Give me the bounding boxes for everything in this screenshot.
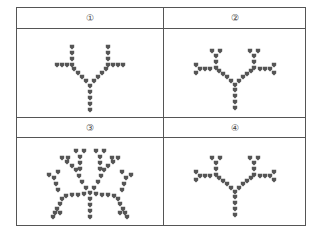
- bead-icon: [78, 155, 82, 160]
- bead-icon: [258, 67, 262, 72]
- bead-icon: [248, 156, 252, 161]
- bead-icon: [60, 63, 64, 68]
- bead-icon: [88, 209, 92, 214]
- bead-icon: [106, 45, 110, 50]
- bead-icon: [248, 49, 252, 54]
- bead-icon: [88, 84, 92, 89]
- bead-icon: [256, 49, 260, 54]
- bead-icon: [112, 194, 116, 199]
- bead-icon: [72, 67, 76, 72]
- bead-icon: [111, 63, 115, 68]
- bead-icon: [70, 57, 74, 62]
- bead-icon: [263, 174, 267, 179]
- bead-icon: [88, 96, 92, 101]
- bead-icon: [203, 174, 207, 179]
- bead-icon: [252, 60, 256, 65]
- bead-icon: [84, 186, 88, 191]
- bead-icon: [194, 178, 198, 183]
- bead-icon: [88, 191, 92, 196]
- bead-icon: [241, 182, 245, 187]
- bead-icon: [98, 161, 102, 166]
- bead-icon: [120, 170, 124, 175]
- bead-icon: [78, 167, 82, 172]
- bead-icon: [272, 178, 276, 183]
- bead-icon: [52, 176, 56, 181]
- bead-icon: [74, 149, 78, 154]
- bead-icon: [203, 67, 207, 72]
- bead-icon: [80, 180, 84, 185]
- bead-icon: [218, 49, 222, 54]
- bead-icon: [92, 186, 96, 191]
- bead-icon: [225, 182, 229, 187]
- bead-icon: [56, 188, 60, 193]
- bead-icon: [252, 167, 256, 172]
- bead-icon: [233, 201, 237, 206]
- bead-icon: [225, 75, 229, 80]
- bead-icon: [249, 176, 253, 181]
- bead-icon: [233, 106, 237, 111]
- bead-icon: [116, 63, 120, 68]
- bead-icon: [125, 215, 129, 220]
- bead-icon: [217, 176, 221, 181]
- bead-icon: [268, 67, 272, 72]
- bead-icon: [214, 167, 218, 172]
- bead-icon: [245, 179, 249, 184]
- bead-icon: [60, 197, 64, 202]
- bead-icon: [194, 71, 198, 76]
- bead-icon: [214, 60, 218, 65]
- bead-icon: [120, 188, 124, 193]
- bead-icon: [272, 63, 276, 68]
- bead-icon: [210, 156, 214, 161]
- bead-icon: [58, 211, 62, 216]
- bead-icon: [51, 215, 55, 220]
- bead-icon: [65, 63, 69, 68]
- bead-icon: [98, 167, 102, 172]
- bead-icon: [102, 149, 106, 154]
- bead-icon: [194, 63, 198, 68]
- bead-icon: [229, 79, 233, 84]
- bead-icon: [76, 193, 80, 198]
- bead-icon: [111, 160, 115, 165]
- bead-icon: [76, 71, 80, 76]
- bead-icon: [221, 179, 225, 184]
- bead-icon: [82, 149, 86, 154]
- bead-icon: [116, 156, 120, 161]
- bead-icon: [84, 79, 88, 84]
- bead-icon: [74, 168, 78, 173]
- bead-icon: [70, 51, 74, 56]
- bead-icon: [233, 207, 237, 212]
- bead-icon: [106, 57, 110, 62]
- option-1-diagram: [55, 45, 125, 113]
- bead-icon: [94, 192, 98, 197]
- bead-icon: [100, 71, 104, 76]
- bead-icon: [94, 149, 98, 154]
- bead-icon: [122, 182, 126, 187]
- bead-icon: [64, 194, 68, 199]
- bead-icon: [78, 161, 82, 166]
- option-2-diagram: [194, 49, 276, 111]
- bead-icon: [249, 69, 253, 74]
- bead-icon: [88, 102, 92, 107]
- bead-icon: [106, 164, 110, 169]
- bead-icon: [214, 161, 218, 166]
- bead-diagrams: [0, 0, 323, 242]
- bead-icon: [233, 190, 237, 195]
- bead-icon: [88, 203, 92, 208]
- bead-icon: [118, 202, 122, 207]
- bead-icon: [88, 215, 92, 220]
- bead-icon: [116, 197, 120, 202]
- bead-icon: [55, 63, 59, 68]
- bead-icon: [210, 49, 214, 54]
- bead-icon: [65, 160, 69, 165]
- bead-icon: [60, 156, 64, 161]
- bead-icon: [92, 79, 96, 84]
- bead-icon: [198, 67, 202, 72]
- bead-icon: [233, 94, 237, 99]
- bead-icon: [252, 161, 256, 166]
- bead-icon: [99, 174, 103, 179]
- bead-icon: [272, 71, 276, 76]
- bead-icon: [121, 63, 125, 68]
- bead-icon: [194, 170, 198, 175]
- bead-icon: [208, 67, 212, 72]
- bead-icon: [237, 79, 241, 84]
